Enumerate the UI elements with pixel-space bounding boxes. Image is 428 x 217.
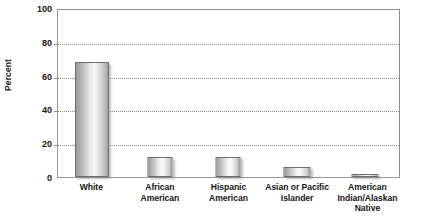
cat-label-hispanic-american: HispanicAmerican [194, 182, 263, 203]
cat-label-white: White [57, 182, 126, 193]
y-tick-label: 0 [2, 173, 52, 183]
bar-slot [194, 10, 262, 177]
bar-asian-or-pacific-islander[interactable] [283, 167, 310, 177]
cat-label-asian-or-pacific-islander: Asian or PacificIslander [261, 182, 333, 203]
y-axis-tick-labels: 100 80 60 40 20 0 [0, 0, 52, 217]
bar-african-american[interactable] [148, 157, 173, 177]
bar-slot [126, 10, 194, 177]
bar-slot [263, 10, 331, 177]
y-tick-label: 100 [2, 4, 52, 14]
bar-american-indian-alaskan-native[interactable] [351, 174, 378, 177]
y-tick-label: 60 [2, 72, 52, 82]
bars-layer [58, 10, 399, 177]
bar-slot [58, 10, 126, 177]
bar-slot [331, 10, 399, 177]
cat-label-african-american: AfricanAmerican [126, 182, 195, 203]
plot-area [57, 9, 400, 178]
y-tick-label: 80 [2, 38, 52, 48]
bar-hispanic-american[interactable] [216, 157, 241, 177]
x-axis-category-labels: White AfricanAmerican HispanicAmerican A… [57, 182, 400, 217]
bar-chart: Percent 100 80 60 40 20 0 [0, 0, 428, 217]
bar-white[interactable] [75, 62, 109, 177]
cat-label-american-indian-alaskan-native: AmericanIndian/AlaskanNative [331, 182, 403, 214]
y-tick-label: 20 [2, 139, 52, 149]
y-tick-label: 40 [2, 105, 52, 115]
